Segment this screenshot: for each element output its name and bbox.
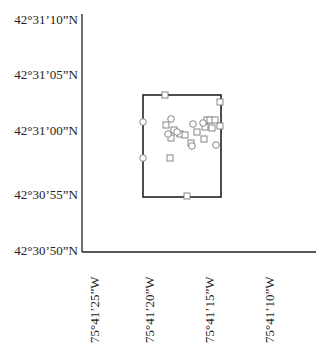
sample-markers (140, 92, 223, 199)
circle-marker (189, 143, 196, 150)
x-tick-label: 75°41’25”W (88, 276, 102, 343)
square-marker (217, 99, 223, 105)
square-marker (194, 129, 200, 135)
y-tick-label: 42°30’55”N (0, 188, 78, 202)
study-area-boundary (143, 95, 221, 197)
x-tick-label: 75°41’20”W (143, 276, 157, 343)
y-tick-label: 42°30’50”N (0, 244, 78, 258)
map-figure: 42°31’10”N 42°31’05”N 42°31’00”N 42°30’5… (0, 0, 328, 345)
circle-marker (213, 142, 220, 149)
square-marker (182, 132, 188, 138)
y-tick-label: 42°31’00”N (0, 124, 78, 138)
y-tick-label: 42°31’05”N (0, 68, 78, 82)
circle-marker (174, 129, 181, 136)
circle-marker (140, 155, 147, 162)
square-marker (163, 122, 169, 128)
circle-marker (168, 116, 175, 123)
square-marker (201, 136, 207, 142)
square-marker (184, 193, 190, 199)
circle-marker (165, 131, 172, 138)
circle-marker (190, 121, 197, 128)
square-marker (209, 125, 215, 131)
circle-marker (140, 119, 147, 126)
square-marker (212, 117, 218, 123)
circle-marker (200, 120, 207, 127)
square-marker (162, 92, 168, 98)
square-marker (217, 123, 223, 129)
x-tick-label: 75°41’15”W (203, 276, 217, 343)
x-tick-label: 75°41’10”W (263, 276, 277, 343)
square-marker (167, 155, 173, 161)
map-plot-area (0, 0, 328, 345)
y-tick-label: 42°31’10”N (0, 13, 78, 27)
